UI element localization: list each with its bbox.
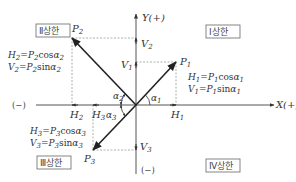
vector-p2 — [72, 38, 136, 105]
vector-diagram: Ⅱ상한 Ⅰ상한 Ⅲ상한 Ⅳ상한 Y(+) (−) X(+) (−) P2 P1 … — [0, 0, 296, 182]
quadrant-boxes — [36, 24, 240, 172]
eq-v3: V3=P3sinα3 — [30, 138, 83, 150]
quadrant-2-label: Ⅱ상한 — [39, 26, 59, 36]
alpha2-label: α2 — [113, 91, 124, 103]
h1-label: H1 — [170, 109, 184, 122]
v2-label: V2 — [141, 38, 153, 51]
quadrant-1-label: Ⅰ상한 — [209, 27, 228, 37]
quadrant-4-label: Ⅳ상한 — [209, 161, 233, 171]
x-axis-positive-label: X(+) — [275, 99, 296, 110]
eq-h1: H1=P1cosα1 — [187, 72, 244, 84]
eq-v2: V2=P2sinα2 — [8, 62, 61, 74]
arc-alpha3 — [121, 105, 126, 116]
y-axis-positive-label: Y(+) — [142, 12, 165, 23]
y-axis-negative-label: (−) — [141, 165, 155, 175]
vectors — [72, 38, 176, 150]
alpha1-label: α1 — [151, 93, 162, 105]
alpha3-label: α3 — [106, 110, 117, 122]
v3-label: V3 — [140, 141, 152, 154]
p3-label: P3 — [83, 153, 96, 166]
h2-label: H2 — [69, 109, 84, 122]
eq-v1: V1=P1sinα1 — [188, 84, 241, 96]
arc-alpha1 — [146, 95, 151, 105]
quadrant-3-label: Ⅲ상한 — [40, 158, 62, 168]
eq-h3: H3=P3cosα3 — [29, 126, 87, 138]
p1-label: P1 — [179, 56, 191, 69]
eq-h2: H2=P2cosα2 — [7, 50, 65, 62]
v1-label: V1 — [121, 59, 133, 72]
p2-label: P2 — [71, 23, 84, 36]
x-axis-negative-label: (−) — [12, 100, 26, 110]
